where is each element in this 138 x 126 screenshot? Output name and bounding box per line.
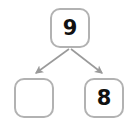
edge-root-to-left	[36, 49, 69, 73]
tree-node-left-child[interactable]	[14, 78, 54, 118]
edge-root-to-right	[71, 49, 102, 73]
tree-node-root-label: 9	[63, 18, 78, 39]
tree-node-right-child[interactable]: 8	[84, 78, 124, 118]
tree-node-right-child-label: 8	[97, 88, 112, 109]
tree-diagram: 9 8	[0, 0, 138, 126]
tree-node-root[interactable]: 9	[50, 8, 90, 48]
